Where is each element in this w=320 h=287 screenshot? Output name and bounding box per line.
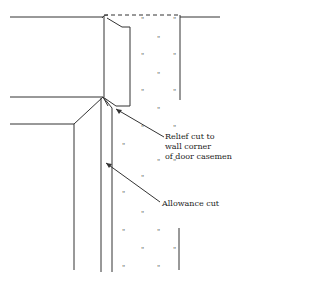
- svg-text:": ": [122, 190, 125, 198]
- svg-text:": ": [157, 228, 160, 236]
- svg-text:": ": [157, 106, 160, 114]
- relief-cut-label-line2: wall corner: [165, 142, 232, 152]
- svg-text:": ": [157, 71, 160, 79]
- svg-text:": ": [122, 228, 125, 236]
- svg-text:": ": [157, 264, 160, 272]
- svg-text:": ": [122, 142, 125, 150]
- svg-text:": ": [141, 88, 144, 96]
- svg-text:": ": [122, 264, 125, 272]
- svg-text:": ": [157, 35, 160, 43]
- svg-text:": ": [173, 88, 176, 96]
- relief-cut-label: Relief cut to wall corner of door caseme…: [165, 132, 232, 162]
- svg-text:": ": [141, 246, 144, 254]
- svg-text:": ": [141, 124, 144, 132]
- svg-text:": ": [173, 52, 176, 60]
- relief-cut-label-line1: Relief cut to: [165, 132, 232, 142]
- svg-text:": ": [141, 16, 144, 24]
- relief-cut-label-line3: of door casement: [165, 152, 232, 162]
- svg-text:": ": [173, 16, 176, 24]
- flap-diagonal: [107, 18, 122, 27]
- svg-text:": ": [173, 124, 176, 132]
- wall-corner-diagonal: [74, 97, 103, 124]
- casing-top-corner: [102, 15, 108, 18]
- svg-text:": ": [157, 158, 160, 166]
- allowance-cut-label: Allowance cut: [162, 199, 219, 209]
- svg-text:": ": [141, 210, 144, 218]
- svg-text:": ": [173, 246, 176, 254]
- allowance-cut-leader: [106, 163, 160, 202]
- svg-text:": ": [141, 174, 144, 182]
- svg-text:": ": [141, 52, 144, 60]
